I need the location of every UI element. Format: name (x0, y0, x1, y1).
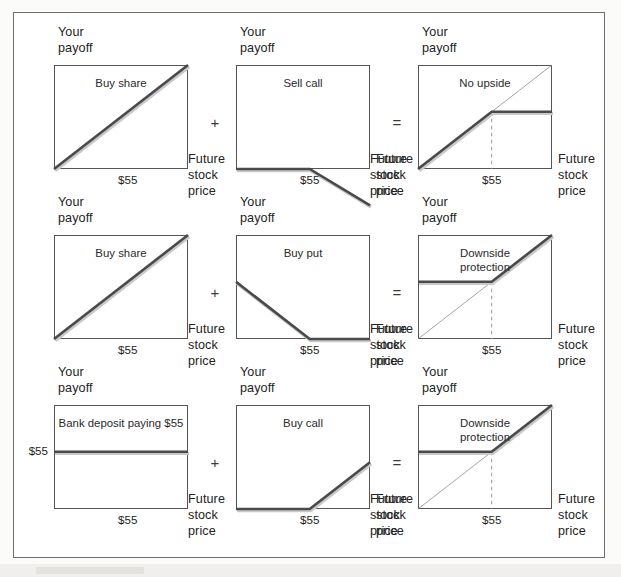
x-axis-tick-strike: $55 (290, 173, 330, 186)
x-axis-label: Future stock price (558, 151, 595, 199)
panel-title: Buy share (54, 76, 188, 90)
x-axis-label: Future stock price (370, 491, 407, 539)
x-axis-tick-strike: $55 (472, 173, 512, 186)
panel-title: Buy call (236, 416, 370, 430)
x-axis-tick-strike: $55 (108, 513, 148, 526)
panel-title: Downside protection (418, 416, 552, 444)
x-axis-tick-strike: $55 (290, 343, 330, 356)
payoff-line (236, 282, 370, 339)
payoff-line-shadow (419, 113, 553, 170)
y-axis-label: Your payoff (58, 364, 93, 396)
figure-outer-frame: Your payoffBuy share$55Future stock pric… (13, 12, 605, 558)
x-axis-label: Future stock price (558, 321, 595, 369)
x-axis-label: Future stock price (188, 321, 225, 369)
operator-equals: = (388, 284, 406, 301)
operator-plus: + (206, 114, 224, 131)
payoff-line-shadow (237, 283, 371, 340)
y-axis-label: Your payoff (58, 194, 93, 226)
panel-title: No upside (418, 76, 552, 90)
x-axis-label: Future stock price (370, 151, 407, 199)
x-axis-tick-strike: $55 (108, 173, 148, 186)
y-axis-label: Your payoff (240, 364, 275, 396)
x-axis-label: Future stock price (558, 491, 595, 539)
y-axis-label: Your payoff (58, 24, 93, 56)
y-axis-tick-deposit: $55 (14, 444, 48, 457)
x-axis-label: Future stock price (188, 491, 225, 539)
y-axis-label: Your payoff (422, 24, 457, 56)
panel-title: Buy share (54, 246, 188, 260)
payoff-diagram-figure: Your payoffBuy share$55Future stock pric… (0, 0, 621, 577)
x-axis-label: Future stock price (370, 321, 407, 369)
operator-equals: = (388, 114, 406, 131)
y-axis-label: Your payoff (240, 24, 275, 56)
operator-equals: = (388, 454, 406, 471)
operator-plus: + (206, 284, 224, 301)
operator-plus: + (206, 454, 224, 471)
panel-title: Downside protection (418, 246, 552, 274)
x-axis-tick-strike: $55 (472, 513, 512, 526)
panel-title: Buy put (236, 246, 370, 260)
y-axis-label: Your payoff (422, 364, 457, 396)
caption-smudge (36, 567, 144, 574)
x-axis-tick-strike: $55 (108, 343, 148, 356)
panel-title: Bank deposit paying $55 (54, 416, 188, 430)
payoff-line (236, 462, 370, 509)
y-axis-label: Your payoff (240, 194, 275, 226)
panel-title: Sell call (236, 76, 370, 90)
payoff-line-shadow (237, 464, 371, 511)
x-axis-label: Future stock price (188, 151, 225, 199)
y-axis-label: Your payoff (422, 194, 457, 226)
x-axis-tick-strike: $55 (472, 343, 512, 356)
x-axis-tick-strike: $55 (290, 513, 330, 526)
